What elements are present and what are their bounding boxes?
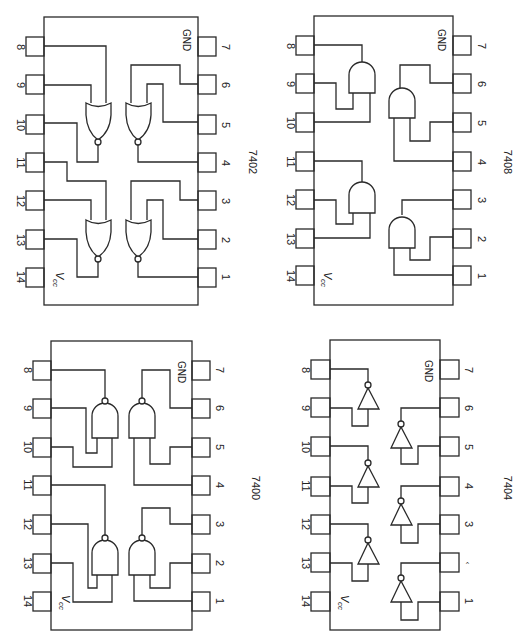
pin-label: 9: [22, 405, 34, 411]
pin-8: [311, 360, 330, 379]
pin-13: [311, 553, 330, 572]
wiring: [44, 46, 198, 277]
pin-label: 3: [476, 197, 488, 203]
vcc-label: V cc: [319, 272, 334, 287]
pin-label: 5: [214, 444, 226, 450]
pin-labels-right: 7 6 5 4 3 2 1: [214, 367, 226, 604]
pin-3: [192, 515, 210, 534]
pin-4: [453, 152, 471, 171]
pin-label: 14: [22, 595, 34, 607]
pin-label: 10: [15, 119, 27, 131]
gnd-label: GND: [423, 360, 434, 382]
pin-label: 6: [220, 82, 232, 88]
pin-13: [26, 230, 44, 249]
pin-label: 1: [214, 598, 226, 604]
pin-label: 3: [463, 521, 475, 527]
pin-label: 6: [463, 405, 475, 411]
pin-labels-left: 8 9 10 11 12 13 14: [300, 367, 312, 607]
pin-6: [198, 75, 216, 94]
pin-label: 2: [476, 236, 488, 242]
left-pins: [26, 37, 44, 287]
and-gate: [389, 217, 415, 248]
pin-10: [311, 437, 330, 456]
pin-label: 8: [22, 367, 34, 373]
pin-11: [311, 477, 330, 496]
pin-2: [440, 553, 459, 572]
svg-text:cc: cc: [57, 602, 66, 610]
pin-7: [453, 36, 471, 55]
pin-10: [296, 113, 314, 132]
pin-labels-right: 7 6 5 4 3 2 1: [220, 44, 232, 280]
pin-label: 14: [15, 271, 27, 283]
pin-12: [26, 191, 44, 210]
pin-label: 13: [22, 557, 34, 569]
pin-3: [198, 191, 216, 210]
pin-11: [26, 153, 44, 172]
pin-labels-left: 8 9 10 11 12 13 14: [285, 43, 297, 282]
pin-9: [311, 398, 330, 417]
pin-9: [33, 399, 51, 418]
pin-2: [198, 230, 216, 249]
pin-7: [198, 37, 216, 56]
pin-5: [453, 113, 471, 132]
chip-label: 7402: [247, 150, 259, 174]
pin-8: [296, 36, 314, 55]
not-gate: [391, 575, 412, 602]
nand-gate: [92, 535, 118, 575]
pin-10: [33, 438, 51, 457]
chip-7400: 8 9 10 11 12 13 14 7 6 5 4 3 2 1 GND V c…: [22, 341, 262, 630]
pin-label: 12: [285, 194, 297, 206]
and-gate: [349, 62, 375, 93]
pin-label: 4: [463, 483, 475, 489]
pin-label: 5: [463, 444, 475, 450]
pin-8: [26, 37, 44, 56]
pin-14: [311, 592, 330, 611]
pin-11: [33, 476, 51, 495]
gnd-label: GND: [181, 29, 192, 51]
gnd-label: GND: [176, 361, 187, 383]
pin-5: [192, 438, 210, 457]
pin-label: 6: [214, 405, 226, 411]
pin-6: [453, 74, 471, 93]
pin-label: 2: [214, 560, 226, 566]
nor-gate: [86, 220, 111, 262]
pin-label: 11: [15, 157, 27, 168]
pin-1: [453, 266, 471, 285]
vcc-label: V cc: [336, 595, 351, 610]
pin-12: [33, 515, 51, 534]
pin-14: [33, 592, 51, 611]
svg-text:cc: cc: [51, 279, 60, 287]
svg-text:cc: cc: [319, 279, 328, 287]
pin-label: 5: [476, 120, 488, 126]
chip-7408: 8 9 10 11 12 13 14 7 6 5 4 3 2 1 GND V c…: [285, 16, 514, 305]
pin-8: [33, 361, 51, 380]
pin-labels-left: 8 9 10 11 12 13 14: [22, 367, 34, 607]
pin-label: 10: [300, 441, 312, 453]
pin-labels-right: 7 6 5 4 3 ‹ 1: [463, 367, 475, 604]
pin-label: 11: [22, 479, 34, 490]
pin-label: 13: [285, 233, 297, 245]
pin-label: 8: [300, 367, 312, 373]
pin-label: 2: [220, 237, 232, 243]
wiring: [51, 370, 192, 602]
pin-label: 4: [214, 482, 226, 488]
pin-4: [192, 476, 210, 495]
pin-label: 7: [476, 43, 488, 49]
chip-body: [44, 17, 198, 305]
pin-9: [296, 74, 314, 93]
pin-4: [198, 153, 216, 172]
chip-7402: 8 9 10 11 12 13 14 7 6 5 4 3 2 1 GND V c…: [15, 17, 259, 305]
pin-3: [453, 190, 471, 209]
nand-gate: [92, 398, 118, 438]
pin-label: 14: [300, 595, 312, 607]
chip-label: 7408: [502, 150, 514, 174]
pin-9: [26, 75, 44, 94]
pin-label: 12: [300, 518, 312, 530]
gnd-label: GND: [436, 29, 447, 51]
pin-label: 7: [214, 367, 226, 373]
pin-label: 10: [285, 117, 297, 129]
right-pins: [192, 361, 210, 611]
pin-labels-right: 7 6 5 4 3 2 1: [476, 43, 488, 279]
svg-text:cc: cc: [336, 602, 345, 610]
pin-13: [296, 229, 314, 248]
